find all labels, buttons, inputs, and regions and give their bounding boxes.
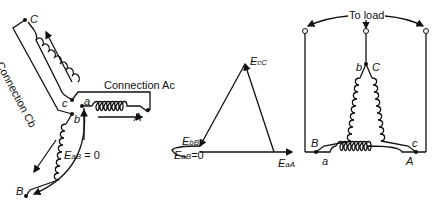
phasor-sub: bB xyxy=(189,138,199,147)
emf-tail: = 0 xyxy=(81,149,100,161)
terminal-b-label-right: b xyxy=(356,62,362,73)
phasor-sub: aA xyxy=(285,160,295,169)
phasor-sub: cC xyxy=(257,58,267,67)
terminal-c-label-right: c xyxy=(412,138,418,149)
terminal-b-label: b xyxy=(74,114,80,125)
terminal-A-label: A xyxy=(134,112,141,123)
terminal-c-label: c xyxy=(62,98,68,109)
emf-sub: aB xyxy=(71,152,81,161)
terminal-B-label-right: B xyxy=(311,138,318,149)
coil-cC xyxy=(28,22,72,100)
terminal-a-label: a xyxy=(84,96,90,107)
emf-zero-label: EaB = 0 xyxy=(64,150,100,161)
connection-ac-label: Connection Ac xyxy=(104,80,175,91)
terminal-C-label-right: C xyxy=(372,62,380,73)
phasor-cC xyxy=(245,64,274,152)
terminal-A-label-right: A xyxy=(406,156,413,167)
to-load-label: To load xyxy=(349,10,384,21)
phasor-tail: =0 xyxy=(191,149,204,161)
phasor-aA-label: EaA xyxy=(278,158,295,169)
terminal-a-label-right: a xyxy=(322,156,328,167)
phasor-bB xyxy=(200,64,245,146)
phasor-cC-label: EcC xyxy=(250,56,267,67)
phasor-bB-label: EbB xyxy=(182,136,199,147)
delta-connection-diagram: C Connection Cb c a b Connection Ac A B … xyxy=(0,0,436,205)
phasor-sub: aB xyxy=(181,152,191,161)
phasor-zero-label: EaB=0 xyxy=(174,150,204,161)
terminal-B-label: B xyxy=(16,186,23,197)
terminal-C-label: C xyxy=(30,14,38,25)
